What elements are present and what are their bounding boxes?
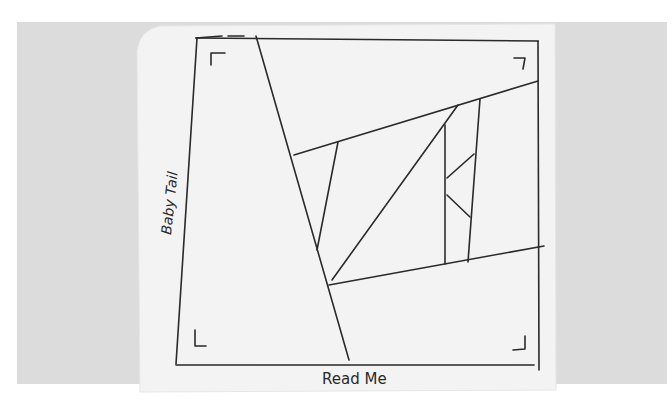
frame-right-line: [538, 41, 539, 370]
napkin: [137, 24, 556, 392]
napkin-photo: Baby Tail Read Me: [0, 0, 672, 417]
bottom-label: Read Me: [322, 370, 387, 388]
